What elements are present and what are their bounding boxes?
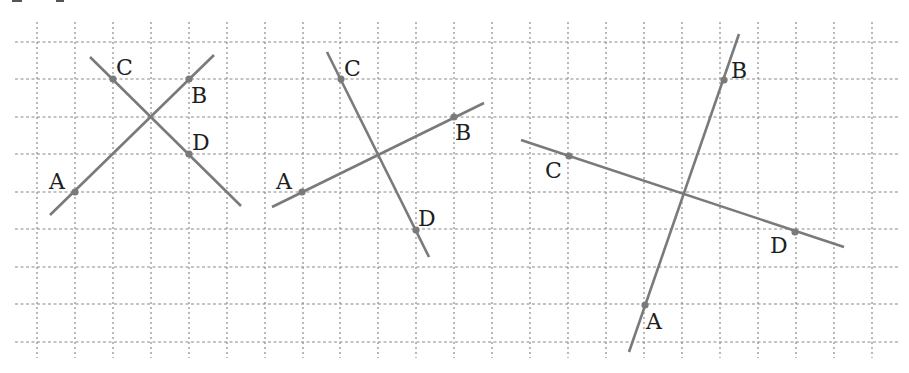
point-a [298, 188, 305, 195]
point-c [565, 152, 572, 159]
point-label-b: B [191, 83, 207, 108]
dotted-grid [15, 22, 898, 358]
point-label-c: C [545, 158, 562, 183]
point-d [791, 228, 798, 235]
point-a [641, 301, 648, 308]
point-label-a: A [48, 169, 66, 194]
point-label-a: A [645, 309, 663, 334]
point-a [71, 188, 78, 195]
point-b [720, 76, 727, 83]
point-label-b: B [455, 120, 471, 145]
grid-diagram: ABCDABCDABCD [0, 0, 909, 373]
point-label-a: A [275, 169, 293, 194]
point-b [185, 75, 192, 82]
top-text-fragment [12, 0, 64, 2]
point-label-c: C [116, 55, 133, 80]
point-label-d: D [418, 206, 436, 231]
point-label-d: D [192, 130, 210, 155]
point-label-c: C [344, 56, 361, 81]
point-label-b: B [731, 58, 747, 83]
point-label-d: D [770, 233, 788, 258]
